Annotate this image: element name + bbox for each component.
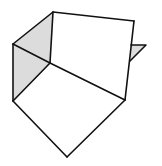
folded-shape-diagram bbox=[0, 0, 162, 166]
edge-rightlower-to-bottom bbox=[67, 100, 125, 157]
edge-center-to-rightlower bbox=[50, 63, 125, 100]
edge-top-to-topright bbox=[53, 12, 134, 21]
edge-leftlower-to-bottom bbox=[13, 101, 67, 157]
